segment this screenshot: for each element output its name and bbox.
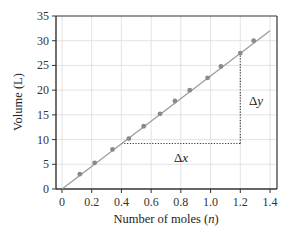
data-point [126, 136, 131, 141]
grid-lines [56, 16, 277, 189]
data-point [187, 88, 192, 93]
x-tick-label: 0.2 [84, 195, 99, 209]
y-axis-ticks: 05101520253035 [37, 9, 56, 196]
x-axis-ticks: 00.20.40.60.81.01.21.4 [59, 189, 278, 209]
data-series [62, 31, 270, 189]
y-axis-title: Volume (L) [11, 73, 25, 131]
x-axis-title: Number of moles (n) [113, 212, 218, 226]
x-tick-label: 0.4 [114, 195, 129, 209]
data-point [141, 124, 146, 129]
delta-x-label: Δx [174, 150, 188, 165]
delta-y-label: Δy [249, 93, 263, 108]
y-tick-label: 0 [43, 182, 49, 196]
data-point [219, 64, 224, 69]
y-tick-label: 35 [37, 9, 49, 23]
data-point [92, 160, 97, 165]
x-tick-label: 0.6 [144, 195, 159, 209]
data-point [173, 99, 178, 104]
y-tick-label: 15 [37, 108, 49, 122]
x-tick-label: 0.8 [173, 195, 188, 209]
data-point [77, 172, 82, 177]
data-point [205, 75, 210, 80]
data-point [110, 147, 115, 152]
y-tick-label: 30 [37, 34, 49, 48]
x-tick-label: 1.0 [203, 195, 218, 209]
axes [56, 16, 277, 189]
x-tick-label: 0 [59, 195, 65, 209]
volume-vs-moles-chart: 00.20.40.60.81.01.21.4 05101520253035 Nu… [0, 0, 293, 242]
y-tick-label: 20 [37, 83, 49, 97]
y-tick-label: 25 [37, 58, 49, 72]
data-point [238, 51, 243, 56]
x-tick-label: 1.4 [263, 195, 278, 209]
y-tick-label: 10 [37, 133, 49, 147]
x-tick-label: 1.2 [233, 195, 248, 209]
data-point [158, 111, 163, 116]
data-point [251, 38, 256, 43]
y-tick-label: 5 [43, 157, 49, 171]
